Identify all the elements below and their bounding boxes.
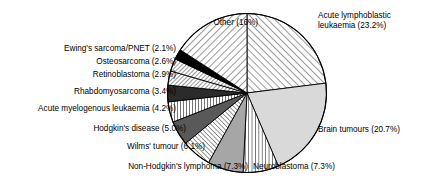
slice-label-acute-lymphoblastic-leukaemia: Acute lymphoblastic leukaemia (23.2%) — [318, 11, 423, 32]
slice-label-acute-myelogenous-leukaemia: Acute myelogenous leukaemia (4.2%) — [38, 104, 176, 114]
all-label-line2: leukaemia (23.2%) — [318, 21, 386, 30]
pie-chart-figure: Acute lymphoblastic leukaemia (23.2%) Br… — [0, 0, 427, 188]
all-label-line1: Acute lymphoblastic — [318, 11, 391, 20]
slice-label-neuroblastoma: Neuroblastoma (7.3%) — [253, 162, 335, 172]
slice-label-retinoblastoma: Retinoblastoma (2.9%) — [93, 70, 176, 80]
pie-slice-acute-lymphoblastic-leukaemia[interactable] — [247, 14, 326, 94]
slice-label-other: Other (16%) — [213, 18, 258, 28]
slice-label-rhabdomyosarcoma: Rhabdomyosarcoma (3.4%) — [74, 87, 176, 97]
slice-label-ewings-sarcoma-pnet: Ewing's sarcoma/PNET (2.1%) — [64, 44, 176, 54]
slice-label-hodgkins-disease: Hodgkin's disease (5.0%) — [93, 124, 186, 134]
slice-label-brain-tumours: Brain tumours (20.7%) — [318, 125, 400, 135]
slice-label-non-hodgkins-lymphoma: Non-Hodgkin's lymphoma (7.3%) — [128, 162, 248, 172]
slice-label-wilms-tumour: Wilms' tumour (6.1%) — [127, 142, 205, 152]
slice-label-osteosarcoma: Osteosarcoma (2.6%) — [96, 57, 176, 67]
